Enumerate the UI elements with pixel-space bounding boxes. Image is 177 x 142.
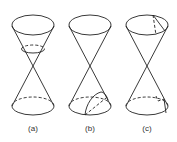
panel-label-c: (c) <box>142 124 152 133</box>
cone-c: (c) <box>126 15 168 133</box>
panel-label-a: (a) <box>28 124 38 133</box>
conic-sections-diagram: (a) (b) (c) <box>0 0 177 142</box>
cone-b: (b) <box>69 15 111 133</box>
cone-a: (a) <box>12 15 54 133</box>
panel-label-b: (b) <box>85 124 95 133</box>
